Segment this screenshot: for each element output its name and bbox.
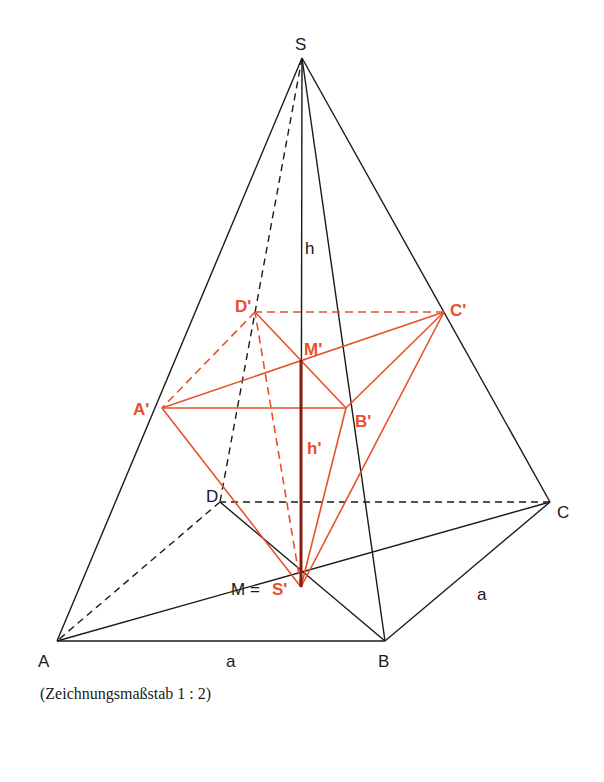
edge-SA xyxy=(57,58,302,641)
label-M-eq: M = xyxy=(231,580,260,599)
label-a-right: a xyxy=(477,585,487,604)
edge-D'A' xyxy=(162,312,255,408)
label-h-prime: h' xyxy=(307,439,321,458)
scale-caption: (Zeichnungsmaßstab 1 : 2) xyxy=(40,685,211,703)
inner-pyramid xyxy=(162,312,444,587)
label-A-prime: A' xyxy=(133,400,149,419)
label-S-prime: S' xyxy=(272,580,287,599)
label-A: A xyxy=(38,652,50,671)
label-h: h xyxy=(305,239,314,258)
edge-DA xyxy=(57,502,220,641)
pyramid-diagram: S A B C D M = S' A' B' C' D' M' h h' a a… xyxy=(0,0,604,782)
edge-S'B' xyxy=(301,408,346,587)
label-C: C xyxy=(557,503,569,522)
label-B-prime: B' xyxy=(355,412,371,431)
label-D-prime: D' xyxy=(235,297,251,316)
edge-SD xyxy=(220,58,302,502)
label-B: B xyxy=(378,652,389,671)
label-S: S xyxy=(295,35,306,54)
label-D: D xyxy=(206,487,218,506)
edge-B'C' xyxy=(346,312,444,408)
label-M-prime: M' xyxy=(304,340,322,359)
edge-S'A' xyxy=(162,408,301,587)
label-a-bottom: a xyxy=(226,652,236,671)
edge-BC xyxy=(385,502,550,641)
label-C-prime: C' xyxy=(450,301,466,320)
